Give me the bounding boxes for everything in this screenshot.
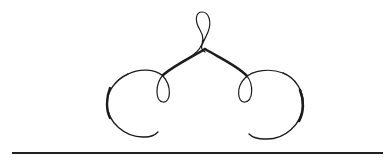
horizontal-rule bbox=[12, 152, 383, 154]
right-swash-thick bbox=[205, 49, 247, 76]
left-curl-swell bbox=[107, 88, 110, 118]
right-curl-swell bbox=[299, 90, 303, 121]
left-small-loop bbox=[128, 70, 169, 102]
left-big-curl bbox=[107, 74, 158, 137]
calligraphic-flourish-ornament bbox=[0, 0, 387, 168]
left-swash-thick bbox=[163, 49, 205, 75]
right-big-curl bbox=[249, 73, 303, 139]
